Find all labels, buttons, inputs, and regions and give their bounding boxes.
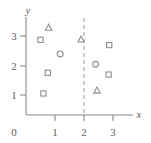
x-tick-marks	[55, 115, 113, 121]
y-tick-label-3: 3	[11, 30, 17, 42]
plot-canvas: 0 1 2 3 1 2 3 y x	[0, 0, 151, 143]
y-tick-label-2: 2	[11, 60, 17, 72]
data-point-square	[38, 37, 43, 42]
data-point-circle	[93, 61, 99, 67]
data-point-circle	[57, 51, 63, 57]
axes-group	[26, 17, 133, 115]
y-tick-marks	[20, 36, 26, 95]
axis-titles: y x	[25, 4, 142, 120]
data-markers-layer	[38, 24, 112, 96]
data-point-square	[45, 70, 50, 75]
data-point-triangle	[78, 36, 84, 42]
data-point-square	[41, 91, 46, 96]
data-point-triangle	[45, 24, 51, 30]
data-point-triangle	[94, 87, 100, 93]
x-tick-label-3: 3	[110, 126, 116, 138]
x-tick-label-1: 1	[52, 126, 58, 138]
tick-labels: 0 1 2 3 1 2 3	[11, 30, 116, 138]
data-point-square	[106, 72, 111, 77]
x-axis-label: x	[136, 108, 142, 120]
data-point-square	[107, 42, 112, 47]
x-tick-label-2: 2	[81, 126, 87, 138]
y-tick-label-1: 1	[11, 89, 17, 101]
scatter-plot-figure: 0 1 2 3 1 2 3 y x	[0, 0, 151, 143]
y-axis-label: y	[25, 4, 31, 16]
x-tick-label-0: 0	[11, 126, 17, 138]
